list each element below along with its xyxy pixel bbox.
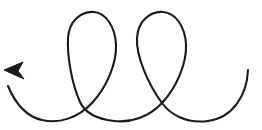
figure-container xyxy=(0,0,262,130)
canvas-background xyxy=(0,0,262,130)
looping-arrow-diagram xyxy=(0,0,262,130)
